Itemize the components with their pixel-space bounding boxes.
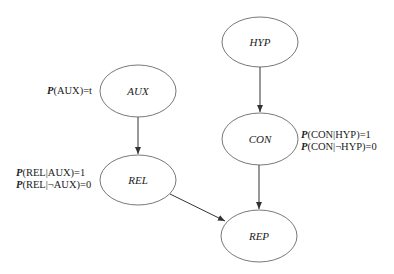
node-rel: REL — [100, 155, 176, 205]
cpt-rel-row-2: P(REL|¬AUX)=0 — [16, 179, 91, 191]
cpt-rel-text-2: (REL|¬AUX)=0 — [22, 179, 91, 190]
node-hyp-label: HYP — [249, 36, 271, 48]
cpt-aux-text: (AUX)=t — [53, 85, 92, 96]
cpt-rel: P(REL|AUX)=1 P(REL|¬AUX)=0 — [16, 167, 91, 191]
node-rel-label: REL — [127, 174, 148, 186]
cpt-con-row-2: P(CON|¬HYP)=0 — [301, 141, 377, 153]
node-con-label: CON — [249, 133, 272, 145]
cpt-rel-text-1: (REL|AUX)=1 — [22, 167, 85, 178]
node-hyp: HYP — [222, 17, 298, 67]
node-rep-label: REP — [248, 230, 269, 242]
node-aux-label: AUX — [126, 85, 150, 97]
cpt-con-text-1: (CON|HYP)=1 — [307, 129, 370, 140]
cpt-rel-row-1: P(REL|AUX)=1 — [16, 167, 91, 179]
cpt-aux: P(AUX)=t — [47, 85, 92, 97]
node-aux: AUX — [100, 65, 176, 117]
cpt-con: P(CON|HYP)=1 P(CON|¬HYP)=0 — [301, 129, 377, 153]
cpt-con-row-1: P(CON|HYP)=1 — [301, 129, 377, 141]
cpt-con-text-2: (CON|¬HYP)=0 — [307, 141, 376, 152]
edge-rel-rep — [170, 194, 225, 221]
node-rep: REP — [221, 210, 297, 262]
node-con: CON — [222, 113, 298, 165]
